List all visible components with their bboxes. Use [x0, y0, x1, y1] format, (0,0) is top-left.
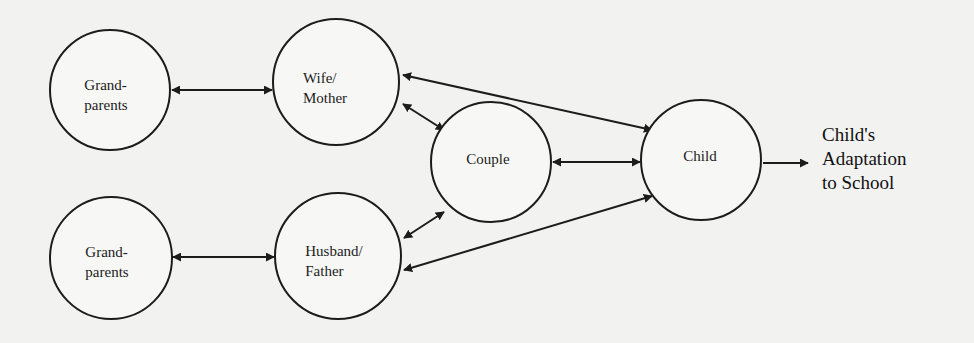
node-grandparents-bottom-label: Grand- parents: [85, 242, 128, 282]
node-couple-label: Couple: [466, 149, 509, 169]
diagram-canvas: Grand- parents Wife/ Mother Grand- paren…: [0, 0, 974, 343]
edge-wife-mother-couple: [403, 104, 444, 130]
node-grandparents-top-label: Grand- parents: [84, 75, 127, 115]
edge-husband-father-couple: [404, 212, 444, 238]
node-husband-father-label: Husband/ Father: [305, 241, 363, 281]
outcome-label: Child's Adaptation to School: [822, 123, 906, 195]
node-child-label: Child: [683, 146, 716, 166]
node-wife-mother-label: Wife/ Mother: [303, 68, 347, 108]
